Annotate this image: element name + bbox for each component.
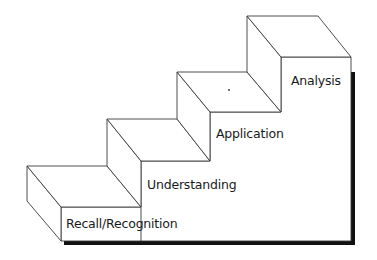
step-label-analysis: Analysis [291,75,341,88]
step-3-dot [228,89,230,91]
staircase-diagram [0,0,377,260]
step-label-application: Application [216,128,284,141]
step-label-understanding: Understanding [147,179,237,192]
step-label-recall-recognition: Recall/Recognition [66,218,178,231]
